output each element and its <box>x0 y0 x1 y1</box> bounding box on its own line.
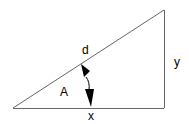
angle-label: A <box>60 85 68 99</box>
opposite-side-label: y <box>174 55 180 69</box>
angle-arrow-icon <box>81 64 94 107</box>
hypotenuse-label: d <box>82 43 89 57</box>
adjacent-side-label: x <box>88 109 94 123</box>
triangle-diagram: d y x A <box>0 0 189 124</box>
